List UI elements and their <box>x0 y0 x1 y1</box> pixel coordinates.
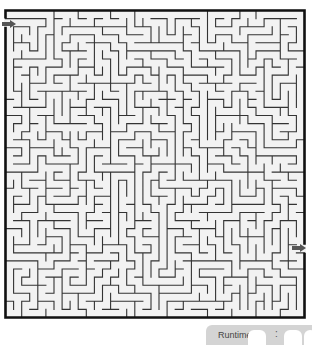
entry-arrow-icon <box>2 20 16 28</box>
maze-board[interactable] <box>4 9 306 319</box>
runtime-digit-3 <box>284 330 302 345</box>
runtime-digit-1 <box>248 330 266 345</box>
exit-arrow-icon <box>292 244 306 252</box>
maze-grid[interactable] <box>4 9 306 319</box>
runtime-panel: Runtime : <box>206 325 312 345</box>
runtime-separator: : <box>275 328 278 339</box>
runtime-digit-4 <box>304 330 312 345</box>
runtime-label: Runtime <box>218 330 252 340</box>
